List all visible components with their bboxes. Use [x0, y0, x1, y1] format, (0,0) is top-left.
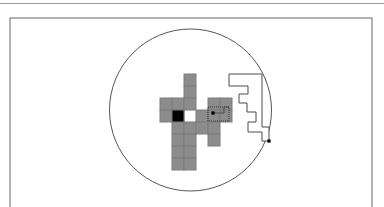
- lattice-cell-gray: [172, 146, 184, 158]
- lattice-cell-gray: [184, 74, 196, 86]
- lattice-cell-gray: [184, 146, 196, 158]
- lattice-cell-black: [172, 110, 184, 122]
- lattice-cell-gray: [172, 122, 184, 134]
- dotted-box-center-point: [211, 111, 214, 114]
- figure-frame: [10, 18, 372, 207]
- lattice-cell-gray: [184, 98, 196, 110]
- lattice-cell-gray: [208, 122, 220, 134]
- lattice-cell-gray: [220, 98, 232, 110]
- lattice-cell-gray: [184, 86, 196, 98]
- diagram-canvas: [0, 0, 384, 207]
- lattice-cell-gray: [172, 98, 184, 110]
- lattice-cell-gray: [220, 110, 232, 122]
- lattice-cell-gray: [172, 134, 184, 146]
- lattice-cell-gray: [184, 122, 196, 134]
- lattice-cell-gray: [160, 110, 172, 122]
- figure-root: [0, 0, 384, 207]
- lattice-cell-gray: [184, 158, 196, 170]
- lattice-cell-gray: [208, 134, 220, 146]
- lattice-cell-gray: [196, 122, 208, 134]
- lattice-cell-gray: [208, 98, 220, 110]
- lattice-cell-gray: [184, 134, 196, 146]
- circle-edge-point: [267, 139, 270, 142]
- lattice-cell-gray: [172, 158, 184, 170]
- lattice-cell-gray: [196, 110, 208, 122]
- lattice-cell-gray: [160, 98, 172, 110]
